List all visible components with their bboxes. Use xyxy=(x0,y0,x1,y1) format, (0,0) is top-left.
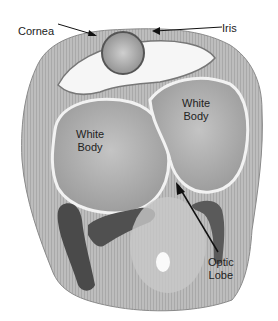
label-white-body-left-line1: White xyxy=(76,128,104,141)
label-white-body-right-line1: White xyxy=(182,97,210,110)
white-body-left xyxy=(52,99,168,213)
label-white-body-left-line2: Body xyxy=(76,141,104,154)
histology-section xyxy=(0,0,278,321)
lens xyxy=(102,32,144,74)
label-optic-lobe-line2: Lobe xyxy=(208,269,234,282)
optic-lobe-hole xyxy=(156,252,170,272)
label-optic-lobe-line1: Optic xyxy=(208,256,234,269)
label-cornea: Cornea xyxy=(18,25,54,38)
cornea-arrow xyxy=(58,24,97,36)
label-white-body-right-line2: Body xyxy=(182,110,210,123)
label-optic-lobe: Optic Lobe xyxy=(208,256,234,282)
label-white-body-right: White Body xyxy=(182,97,210,123)
label-white-body-left: White Body xyxy=(76,128,104,154)
label-iris: Iris xyxy=(222,22,237,35)
